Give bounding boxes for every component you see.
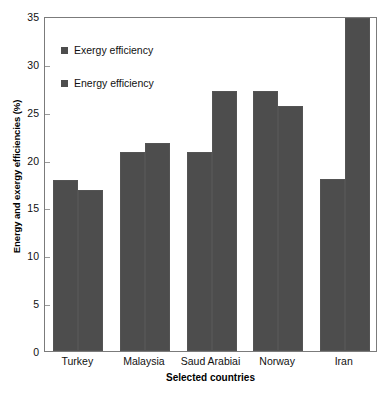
legend-label: Energy efficiency: [74, 77, 154, 89]
bar: [320, 179, 345, 351]
y-axis-tick-mark: [45, 257, 50, 258]
legend: Exergy efficiency Energy efficiency: [61, 44, 154, 110]
y-axis-tick-labels: 05101520253035: [14, 0, 44, 400]
x-axis-tick-label: Norway: [259, 355, 295, 367]
y-axis-tick-mark: [45, 66, 50, 67]
x-axis-tick-label: Iran: [335, 355, 353, 367]
y-axis-tick-mark: [45, 209, 50, 210]
y-axis-tick-label: 30: [14, 59, 44, 71]
bar: [253, 91, 278, 351]
y-axis-tick-label: 0: [14, 346, 44, 358]
bar-group: [187, 18, 237, 351]
bar: [145, 143, 170, 351]
bar: [345, 18, 370, 351]
y-axis-tick-label: 25: [14, 107, 44, 119]
bar: [212, 91, 237, 351]
chart-figure: Energy and exergy efficiencies (%) 05101…: [0, 0, 391, 400]
y-axis-tick-label: 20: [14, 155, 44, 167]
bar-group: [320, 18, 370, 351]
bar: [78, 190, 103, 351]
legend-swatch-icon: [61, 47, 68, 54]
legend-swatch-icon: [61, 80, 68, 87]
y-axis-tick-mark: [45, 305, 50, 306]
bar: [278, 106, 303, 351]
x-axis-tick-label: Saud Arabiai: [181, 355, 241, 367]
bar: [120, 152, 145, 351]
bar-group: [253, 18, 303, 351]
y-axis-tick-label: 35: [14, 11, 44, 23]
legend-label: Exergy efficiency: [74, 44, 153, 56]
plot-area: Exergy efficiency Energy efficiency: [44, 17, 377, 352]
x-axis-tick-label: Malaysia: [123, 355, 164, 367]
x-axis-tick-labels: TurkeyMalaysiaSaud ArabiaiNorwayIran: [44, 355, 377, 371]
y-axis-tick-label: 10: [14, 250, 44, 262]
x-axis-tick-label: Turkey: [61, 355, 93, 367]
y-axis-tick-mark: [45, 114, 50, 115]
y-axis-tick-mark: [45, 162, 50, 163]
legend-item: Energy efficiency: [61, 77, 154, 89]
y-axis-tick-label: 15: [14, 202, 44, 214]
legend-item: Exergy efficiency: [61, 44, 154, 56]
y-axis-tick-label: 5: [14, 298, 44, 310]
x-axis-title: Selected countries: [44, 372, 377, 383]
bar: [187, 152, 212, 351]
bar: [53, 180, 78, 351]
